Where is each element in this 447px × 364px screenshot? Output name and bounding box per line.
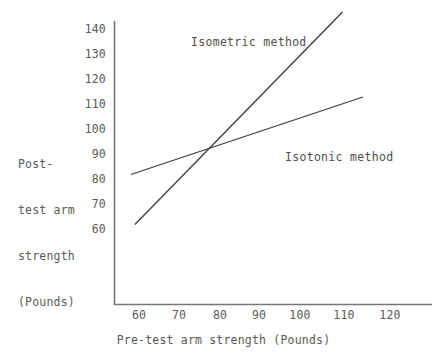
y-tick-label-60: 60 — [78, 222, 106, 236]
y-tick-label-130: 130 — [78, 47, 106, 61]
y-axis-title-line-4: (Pounds) — [18, 295, 75, 310]
x-axis-title: Pre-test arm strength (Pounds) — [0, 333, 447, 348]
chart-container: 140 130 120 110 100 90 80 70 60 60 70 80… — [0, 0, 447, 364]
x-tick-label-80: 80 — [200, 308, 240, 322]
y-axis-title-line-3: strength — [18, 249, 75, 264]
y-tick-label-80: 80 — [78, 172, 106, 186]
y-tick-label-90: 90 — [78, 147, 106, 161]
y-axis-title: Post- test arm strength (Pounds) — [18, 126, 75, 342]
y-tick-label-100: 100 — [78, 122, 106, 136]
series-label-isometric-method: Isometric method — [191, 35, 307, 49]
y-tick-label-110: 110 — [78, 97, 106, 111]
x-tick-label-110: 110 — [324, 308, 364, 322]
y-tick-label-140: 140 — [78, 22, 106, 36]
series-label-isotonic-method: Isotonic method — [285, 150, 393, 164]
x-tick-label-90: 90 — [239, 308, 279, 322]
x-tick-label-70: 70 — [159, 308, 199, 322]
x-tick-label-100: 100 — [280, 308, 320, 322]
x-tick-label-120: 120 — [370, 308, 410, 322]
y-tick-label-120: 120 — [78, 72, 106, 86]
y-tick-label-70: 70 — [78, 197, 106, 211]
y-axis-title-line-2: test arm — [18, 203, 75, 218]
x-tick-label-60: 60 — [119, 308, 159, 322]
y-axis-title-line-1: Post- — [18, 157, 75, 172]
